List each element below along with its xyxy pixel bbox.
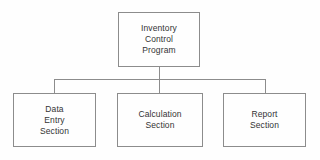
node-root-line-2: Control	[145, 34, 173, 45]
connector-horizontal-bus	[54, 79, 266, 80]
node-root-line-1: Inventory	[141, 23, 177, 34]
connector-drop-report-section	[265, 79, 266, 93]
node-root-line-3: Program	[142, 45, 175, 56]
node-calculation-section[interactable]: Calculation Section	[117, 93, 203, 147]
node-data-entry-section-line-2: Entry	[44, 115, 64, 126]
node-report-section-line-2: Section	[250, 120, 279, 131]
node-data-entry-section[interactable]: Data Entry Section	[13, 93, 96, 147]
node-report-section[interactable]: Report Section	[223, 93, 306, 147]
node-calculation-section-line-2: Section	[145, 120, 174, 131]
node-data-entry-section-line-1: Data	[45, 104, 63, 115]
node-report-section-line-1: Report	[251, 109, 277, 120]
connector-drop-calculation-section	[159, 79, 160, 93]
connector-drop-data-entry-section	[54, 79, 55, 93]
diagram-canvas: Inventory Control Program Data Entry Sec…	[0, 0, 320, 160]
node-calculation-section-line-1: Calculation	[138, 109, 181, 120]
node-inventory-control-program[interactable]: Inventory Control Program	[118, 12, 200, 67]
node-data-entry-section-line-3: Section	[40, 126, 69, 137]
